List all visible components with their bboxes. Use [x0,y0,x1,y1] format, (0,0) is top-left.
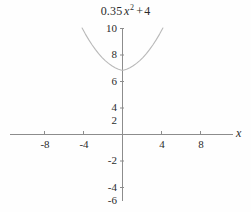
chart-figure: 0.35x2+4 x -8 -4 4 8 10 8 6 4 2 -2 -4 -6 [0,0,251,212]
plot-canvas [0,0,251,212]
